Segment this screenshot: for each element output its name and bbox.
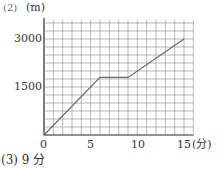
x-tick-0: 0 <box>40 139 47 151</box>
answer-text: (3) 9 分 <box>1 154 45 166</box>
x-tick-5: 5 <box>87 139 94 151</box>
x-tick-10: 10 <box>131 139 145 151</box>
y-tick-3000: 3000 <box>14 33 42 45</box>
x-tick-15: 15 <box>177 139 191 151</box>
x-axis-unit: (分) <box>192 139 212 151</box>
y-tick-1500: 1500 <box>14 81 42 93</box>
